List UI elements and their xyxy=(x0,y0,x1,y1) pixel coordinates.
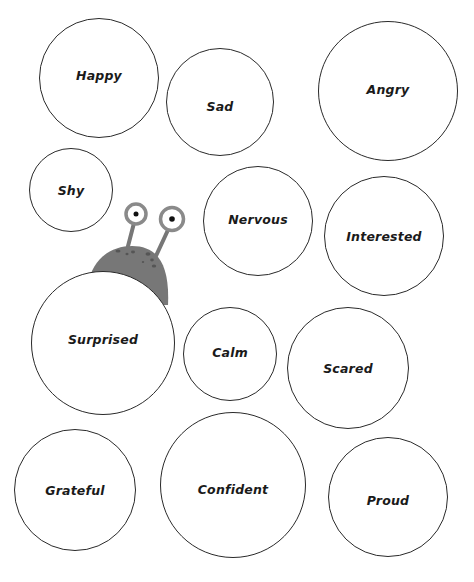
emotion-circle-angry: Angry xyxy=(318,21,458,161)
emotion-label: Sad xyxy=(207,99,234,114)
emotion-label: Nervous xyxy=(228,212,288,227)
emotion-circle-proud: Proud xyxy=(328,437,448,557)
emotion-label: Proud xyxy=(367,493,409,508)
emotion-label: Happy xyxy=(76,68,122,83)
emotion-label: Shy xyxy=(58,183,85,198)
emotion-label: Calm xyxy=(212,345,248,360)
emotion-circle-scared: Scared xyxy=(287,307,409,429)
emotion-circle-sad: Sad xyxy=(166,48,274,156)
monster-left-stalk xyxy=(127,223,134,250)
monster-left-eye xyxy=(126,204,146,224)
emotion-label: Scared xyxy=(323,361,373,376)
monster-right-eye xyxy=(161,208,184,231)
emotion-circle-interested: Interested xyxy=(324,176,444,296)
monster-right-stalk xyxy=(155,230,168,258)
emotion-circle-surprised: Surprised xyxy=(31,271,175,415)
emotion-circle-happy: Happy xyxy=(39,18,159,138)
emotion-label: Confident xyxy=(198,482,268,497)
emotion-label: Surprised xyxy=(68,332,138,347)
emotion-circle-nervous: Nervous xyxy=(203,166,313,276)
emotion-label: Angry xyxy=(367,82,410,97)
emotion-circle-confident: Confident xyxy=(160,412,306,558)
emotion-label: Grateful xyxy=(45,483,105,498)
emotion-circle-calm: Calm xyxy=(183,307,277,401)
emotion-circle-shy: Shy xyxy=(29,148,113,232)
emotion-circle-grateful: Grateful xyxy=(14,429,136,551)
emotion-label: Interested xyxy=(346,229,422,244)
